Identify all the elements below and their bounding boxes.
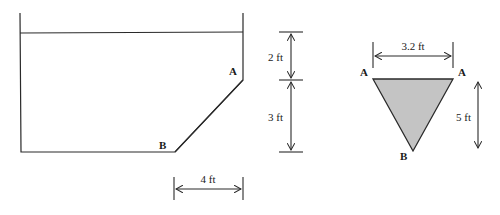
dimension-horizontal-4ft: 4 ft <box>174 173 243 200</box>
water-surface <box>20 32 243 33</box>
dimension-label-3ft: 3 ft <box>268 111 283 123</box>
gate-point-a-left-label: A <box>360 66 368 78</box>
gate-point-a-right-label: A <box>458 66 466 78</box>
triangular-gate <box>373 79 453 151</box>
dimension-width-3-2ft: 3.2 ft <box>373 40 453 68</box>
gate-view: A A B 3.2 ft 5 ft <box>360 40 478 162</box>
tank-outline <box>20 13 243 152</box>
point-a-label: A <box>229 65 237 77</box>
tank-section: A B 4 ft <box>20 13 243 200</box>
point-b-label: B <box>159 139 167 151</box>
gate-point-b-label: B <box>400 150 408 162</box>
diagram-canvas: A B 4 ft 2 ft 3 ft A A B 3.2 ft <box>0 0 500 215</box>
dimension-label-5ft: 5 ft <box>456 111 471 123</box>
inclined-gate-ab <box>175 80 243 152</box>
dimension-height-5ft: 5 ft <box>456 82 478 148</box>
dimension-label-3-2ft: 3.2 ft <box>401 40 424 52</box>
dimension-label-4ft: 4 ft <box>201 173 216 185</box>
depth-dimensions: 2 ft 3 ft <box>268 32 303 152</box>
dimension-label-2ft: 2 ft <box>268 51 283 63</box>
